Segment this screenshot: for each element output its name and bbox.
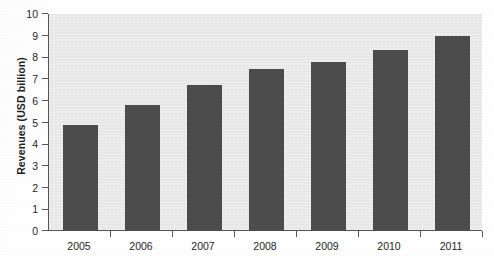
bar	[187, 85, 222, 231]
bar	[63, 125, 98, 231]
y-axis-label: 6	[0, 95, 38, 107]
x-axis-label: 2009	[297, 240, 357, 252]
x-axis-tick	[110, 231, 111, 237]
y-axis-tick	[42, 122, 48, 123]
y-axis-label: 5	[0, 117, 38, 129]
bar	[311, 62, 346, 231]
x-axis-label: 2006	[111, 240, 171, 252]
bar	[435, 36, 470, 231]
y-axis-tick	[42, 144, 48, 145]
y-axis-label: 4	[0, 138, 38, 150]
x-axis-tick	[296, 231, 297, 237]
x-axis-label: 2007	[173, 240, 233, 252]
x-axis-tick	[482, 231, 483, 237]
y-axis-label: 10	[0, 8, 38, 20]
y-axis-label: 3	[0, 160, 38, 172]
y-axis-tick	[42, 78, 48, 79]
y-axis-tick	[42, 35, 48, 36]
plot-area	[48, 14, 482, 231]
y-axis-tick	[42, 13, 48, 14]
x-axis-label: 2008	[235, 240, 295, 252]
x-axis-tick	[358, 231, 359, 237]
y-axis-label: 8	[0, 51, 38, 63]
bar-chart: Revenues (USD billion) 01234567891020052…	[0, 0, 494, 263]
x-axis-tick	[420, 231, 421, 237]
y-axis-label: 1	[0, 203, 38, 215]
bar	[125, 105, 160, 231]
y-axis-label: 0	[0, 225, 38, 237]
x-axis-tick	[234, 231, 235, 237]
y-axis-tick	[42, 230, 48, 231]
x-axis-label: 2005	[49, 240, 109, 252]
y-axis-tick	[42, 165, 48, 166]
x-axis-tick	[172, 231, 173, 237]
y-axis-label: 7	[0, 73, 38, 85]
y-axis-label: 9	[0, 30, 38, 42]
y-axis-tick	[42, 57, 48, 58]
y-axis-tick	[42, 187, 48, 188]
x-axis-label: 2010	[359, 240, 419, 252]
y-axis-label: 2	[0, 182, 38, 194]
bar	[373, 50, 408, 231]
y-axis-tick	[42, 209, 48, 210]
x-axis-label: 2011	[421, 240, 481, 252]
y-axis-tick	[42, 100, 48, 101]
bar	[249, 69, 284, 231]
